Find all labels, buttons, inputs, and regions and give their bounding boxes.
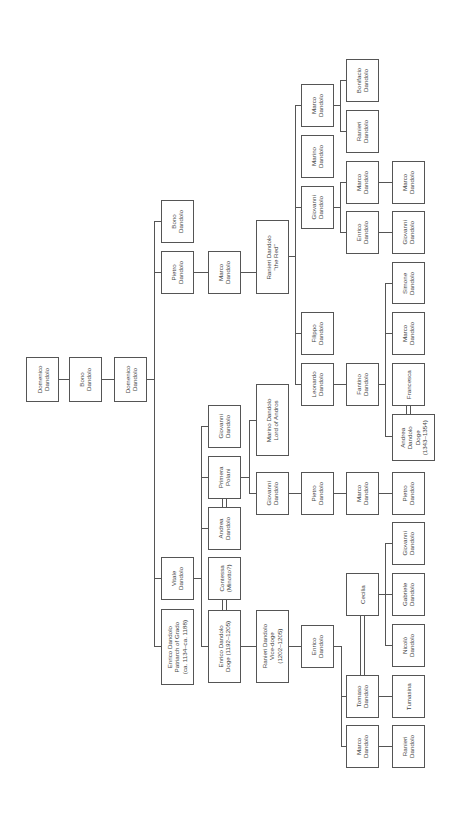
connector-line <box>194 578 201 579</box>
connector-line <box>201 426 208 427</box>
person-box-primera: Primera Polani <box>208 456 241 499</box>
person-name: Bonifacio Dandolo <box>355 68 370 93</box>
person-name: Primera Polani <box>217 467 232 489</box>
connector-line <box>385 436 392 437</box>
connector-line <box>201 426 202 647</box>
person-name: Bono Dandolo <box>170 210 185 233</box>
connector-line <box>334 646 341 647</box>
person-name: Domenico Dandolo <box>123 366 138 394</box>
person-name: Pietro Dandolo <box>310 482 325 505</box>
connector-line <box>295 105 296 384</box>
connector-line <box>147 379 154 380</box>
person-box-enrico4: Enrico Dandolo <box>346 211 379 254</box>
person-box-ranieri-vicedoge: Ranieri Dandolo Vice-doge (1202–1205) <box>256 610 289 683</box>
person-name: Cecilia <box>359 585 366 604</box>
person-box-marco4: Marco Dandolo <box>346 472 379 515</box>
person-name: Francesca <box>405 370 412 399</box>
person-name: Ranieri Dandolo "the Red" <box>265 235 280 279</box>
person-box-marino-andros: Marino Dandolo Lord of Andros <box>256 384 289 456</box>
person-name: Marco Dandolo <box>217 261 232 284</box>
connector-line <box>385 283 386 437</box>
person-box-giovanni3: Giovanni Dandolo <box>301 186 334 229</box>
person-box-andrea1: Andrea Dandolo <box>208 507 241 550</box>
connector-line <box>410 406 411 414</box>
person-box-cecilia: Cecilia <box>346 573 379 616</box>
connector-line <box>340 80 341 132</box>
connector-line <box>406 406 407 414</box>
connector-line <box>59 379 69 380</box>
person-box-pietro1: Pietro Dandolo <box>161 251 194 294</box>
person-box-ranieri-red: Ranieri Dandolo "the Red" <box>256 220 289 294</box>
person-name: Andrea Dandolo Doge (1343–1354) <box>399 420 429 455</box>
person-box-andrea-doge: Andrea Dandolo Doge (1343–1354) <box>392 414 435 461</box>
connector-line <box>289 493 301 494</box>
connector-line <box>289 646 301 647</box>
connector-line <box>379 696 392 697</box>
person-box-domenico1: Domenico Dandolo <box>26 357 59 402</box>
person-box-fantino: Fantino Dandolo <box>346 363 379 406</box>
person-name: Enrico Dandolo <box>310 635 325 658</box>
connector-line <box>385 594 392 595</box>
person-box-enrico-patriarch: Enrico Dandolo Patriarch of Grado (ca. 1… <box>161 609 194 685</box>
connector-line <box>201 646 208 647</box>
person-name: Marco Dandolo <box>401 322 416 345</box>
person-name: Pietro Dandolo <box>170 261 185 284</box>
connector-line <box>334 384 346 385</box>
person-name: Vitale Dandolo <box>170 567 185 590</box>
person-box-bono1: Bono Dandolo <box>69 357 102 402</box>
connector-line <box>379 182 392 183</box>
person-name: Ranieri Dandolo Vice-doge (1202–1205) <box>261 624 283 668</box>
person-name: Marino Dandolo Lord of Andros <box>265 398 280 442</box>
person-name: Enrico Dandolo Doge (1192–1205) <box>217 621 232 672</box>
person-box-ranieri3: Ranieri Dandolo <box>346 110 379 153</box>
connector-line <box>154 646 161 647</box>
connector-line <box>364 616 365 675</box>
connector-line <box>385 543 392 544</box>
person-box-enrico-doge: Enrico Dandolo Doge (1192–1205) <box>208 610 241 683</box>
connector-line <box>379 493 392 494</box>
connector-line <box>241 477 249 478</box>
person-name: Marco Dandolo <box>401 171 416 194</box>
connector-line <box>241 272 256 273</box>
person-box-filippo: Filippo Dandolo <box>301 312 334 355</box>
connector-line <box>222 600 223 610</box>
person-name: Domenico Dandolo <box>35 366 50 394</box>
person-name: Marco Dandolo <box>310 94 325 117</box>
person-box-giovanni1: Giovanni Dandolo <box>208 405 241 448</box>
person-box-contessa: Contessa (Minotto?) <box>208 557 241 600</box>
person-box-tomaso: Tomaso Dandolo <box>346 675 379 718</box>
person-box-gabriele: Gabriele Dandolo <box>392 573 425 616</box>
person-name: Nicolò Dandolo <box>401 634 416 657</box>
person-name: Giovanni Dandolo <box>401 220 416 244</box>
connector-line <box>102 379 114 380</box>
person-box-giovanni2: Giovanni Dandolo <box>256 472 289 515</box>
connector-line <box>249 420 256 421</box>
person-box-marco3: Marco Dandolo <box>346 161 379 204</box>
connector-line <box>379 232 392 233</box>
connector-line <box>154 272 161 273</box>
person-name: Marco Dandolo <box>355 482 370 505</box>
person-box-francesca: Francesca <box>392 363 425 406</box>
connector-line <box>385 333 392 334</box>
person-box-pietro2: Pietro Dandolo <box>301 472 334 515</box>
connector-line <box>360 616 361 675</box>
person-name: Leonardo Dandolo <box>310 371 325 397</box>
person-name: Marco Dandolo <box>355 171 370 194</box>
person-name: Giovanni Dandolo <box>265 481 280 505</box>
connector-line <box>222 499 223 507</box>
person-name: Giovanni Dandolo <box>310 195 325 219</box>
person-box-marco6: Marco Dandolo <box>392 161 425 204</box>
person-box-giovanni4: Giovanni Dandolo <box>392 211 425 254</box>
person-name: Simone Dandolo <box>401 271 416 294</box>
connector-line <box>379 746 392 747</box>
person-box-leonardo: Leonardo Dandolo <box>301 363 334 406</box>
person-box-marco7: Marco Dandolo <box>392 312 425 355</box>
connector-line <box>154 578 161 579</box>
person-box-bonifacio: Bonifacio Dandolo <box>346 59 379 102</box>
person-box-marino2: Marino Dandolo <box>301 135 334 178</box>
connector-line <box>201 477 208 478</box>
person-box-bono2: Bono Dandolo <box>161 200 194 243</box>
person-name: Contessa (Minotto?) <box>217 565 232 593</box>
connector-line <box>241 646 256 647</box>
person-box-enrico3: Enrico Dandolo <box>301 625 334 668</box>
